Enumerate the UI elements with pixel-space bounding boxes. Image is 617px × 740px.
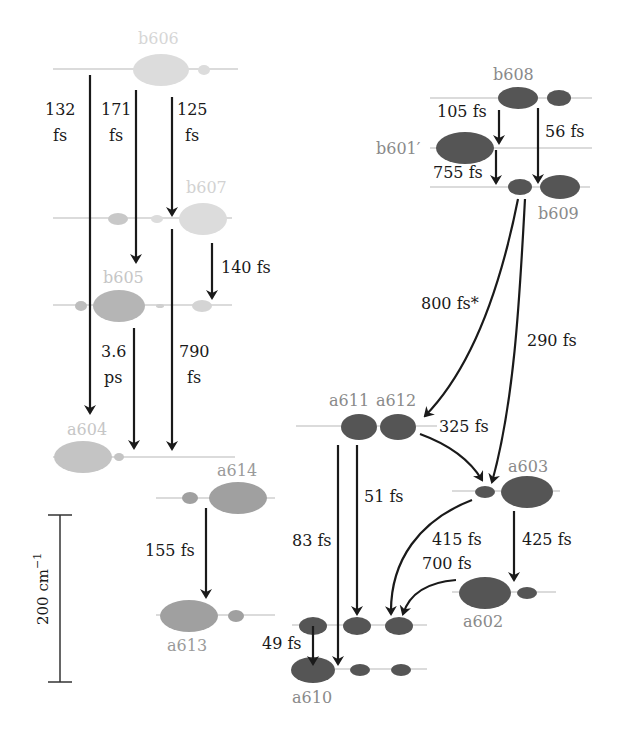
site-a610-c	[391, 664, 411, 676]
pigment-a603	[501, 476, 553, 508]
arrow-a602-mid3	[403, 580, 456, 614]
rate-49: 49 fs	[262, 634, 302, 653]
label-b608: b608	[493, 65, 534, 84]
pigment-a602	[459, 577, 511, 609]
pigment-a611	[341, 414, 377, 440]
rate-3-6: 3.6	[101, 342, 126, 361]
site-a610-b	[350, 664, 370, 676]
rate-290: 290 fs	[527, 331, 577, 350]
pigment-a613	[160, 600, 218, 632]
site-a604-small	[114, 453, 124, 461]
pigment-a612	[380, 414, 416, 440]
rate-415: 415 fs	[432, 530, 482, 549]
pigment-b609	[540, 175, 580, 199]
label-a602: a602	[463, 612, 503, 631]
rate-171-unit: fs	[109, 126, 123, 145]
pigment-b601p	[436, 132, 494, 164]
site-mid-2	[343, 617, 371, 635]
rate-125: 125	[177, 100, 208, 119]
rate-105: 105 fs	[437, 102, 487, 121]
site-b605-right	[192, 300, 212, 312]
site-b605-small	[75, 301, 87, 311]
rate-800: 800 fs*	[421, 294, 479, 313]
rate-140: 140 fs	[221, 258, 271, 277]
label-a614: a614	[217, 461, 257, 480]
rate-790-unit: fs	[187, 368, 201, 387]
site-a603-small	[475, 486, 495, 498]
rate-51: 51 fs	[364, 487, 404, 506]
site-b609-small	[508, 179, 532, 195]
label-a603: a603	[508, 457, 548, 476]
site-mid-3	[385, 617, 413, 635]
site-a602-small	[517, 587, 537, 599]
pigment-b608	[498, 87, 538, 109]
label-b601p: b601′	[376, 139, 421, 158]
pigment-b606	[133, 54, 189, 86]
label-a613: a613	[167, 636, 207, 655]
rate-132: 132	[45, 100, 76, 119]
site-b607-a	[108, 213, 128, 225]
site-b607-b	[151, 215, 163, 223]
pigment-b605	[93, 290, 145, 322]
rate-155: 155 fs	[145, 541, 195, 560]
pigment-b607	[179, 203, 227, 235]
rate-325: 325 fs	[439, 417, 489, 436]
rate-790: 790	[179, 342, 210, 361]
rate-83: 83 fs	[292, 531, 332, 550]
site-b605-tiny	[156, 304, 164, 308]
rate-56: 56 fs	[545, 122, 585, 141]
site-a614-small	[182, 492, 198, 504]
site-b606-small	[198, 65, 210, 75]
scale-bar-label: 200 cm−1	[31, 553, 52, 625]
rate-171: 171	[101, 100, 132, 119]
rate-132-unit: fs	[53, 126, 67, 145]
label-b606: b606	[138, 29, 179, 48]
arrow-a612-a603	[420, 434, 482, 480]
label-a612: a612	[376, 391, 416, 410]
label-b609: b609	[538, 204, 579, 223]
label-a610: a610	[292, 688, 332, 707]
energy-transfer-diagram: b606 b607 b605 a604 a614 a613 132 fs 171…	[0, 0, 617, 740]
pigment-a604	[54, 441, 112, 473]
rate-700: 700 fs	[422, 554, 472, 573]
rate-755: 755 fs	[433, 163, 483, 182]
rate-125-unit: fs	[185, 126, 199, 145]
site-b608-small	[547, 90, 571, 106]
rate-425: 425 fs	[522, 530, 572, 549]
label-a604: a604	[67, 420, 107, 439]
label-b605: b605	[103, 268, 144, 287]
label-b607: b607	[186, 178, 227, 197]
rate-3-6-unit: ps	[104, 368, 122, 387]
label-a611: a611	[329, 391, 369, 410]
site-a613-small	[228, 610, 244, 622]
pigment-a614	[209, 482, 267, 514]
scale-bar: 200 cm−1	[31, 515, 72, 682]
